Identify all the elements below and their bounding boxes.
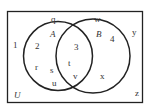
set-b-label: B — [96, 29, 102, 39]
element-s: s — [50, 65, 54, 75]
element-x: x — [100, 71, 105, 81]
element-1: 1 — [13, 40, 18, 50]
element-y: y — [132, 27, 137, 37]
element-q: q — [51, 14, 56, 24]
element-v: v — [73, 71, 78, 81]
set-a-circle — [24, 22, 93, 91]
set-a-label: A — [49, 29, 56, 39]
element-t: t — [68, 58, 71, 68]
element-r: r — [35, 62, 38, 72]
element-u: u — [52, 78, 57, 88]
element-4: 4 — [110, 34, 115, 44]
element-3: 3 — [74, 42, 79, 52]
element-2: 2 — [35, 41, 40, 51]
element-z: z — [135, 88, 139, 98]
element-w: w — [94, 14, 101, 24]
venn-diagram: A B U q w y z 1 2 r s u 3 t v 4 x — [0, 0, 156, 106]
universe-label: U — [14, 90, 21, 100]
